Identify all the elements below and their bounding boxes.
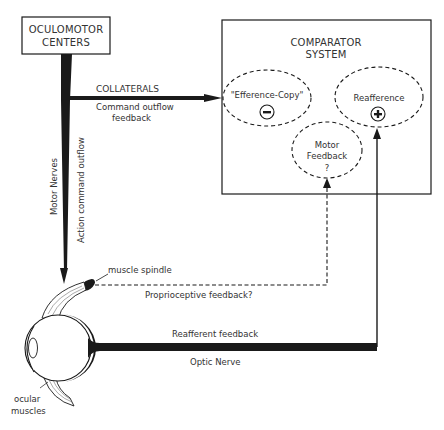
collaterals-line1: Command outflow bbox=[96, 102, 174, 112]
collaterals-title: COLLATERALS bbox=[96, 84, 159, 94]
comparator-title-line1: COMPARATOR bbox=[290, 37, 361, 48]
cornea bbox=[29, 338, 38, 358]
oculomotor-title-line1: OCULOMOTOR bbox=[29, 24, 104, 35]
eyeball bbox=[25, 314, 96, 382]
optic-nerve-label: Optic Nerve bbox=[190, 357, 241, 367]
optic-nerve bbox=[88, 338, 377, 358]
efference-copy-diagram: OCULOMOTOR CENTERS COLLATERALS Command o… bbox=[0, 0, 444, 430]
collaterals-bar bbox=[66, 96, 206, 100]
reafferent-feedback-label: Reafferent feedback bbox=[172, 329, 258, 339]
oculomotor-centers-box: OCULOMOTOR CENTERS bbox=[22, 17, 110, 54]
motor-feedback-node: Motor Feedback ? bbox=[292, 122, 362, 178]
plus-glyph-v bbox=[377, 110, 379, 118]
proprioceptive-label: Proprioceptive feedback? bbox=[145, 290, 252, 300]
minus-glyph bbox=[263, 111, 271, 113]
oculomotor-title-line2: CENTERS bbox=[42, 37, 90, 48]
motor-nerve-arrowhead bbox=[60, 268, 68, 284]
upper-ocular-muscle bbox=[42, 282, 86, 320]
collaterals-line2: feedback bbox=[112, 113, 151, 123]
efference-copy-label: "Efference-Copy" bbox=[231, 90, 304, 100]
motor-nerves-label: Motor Nerves bbox=[49, 157, 59, 215]
ocular-muscles-line2: muscles bbox=[11, 406, 46, 416]
lower-ocular-muscle bbox=[44, 378, 74, 406]
motor-feedback-line3: ? bbox=[325, 163, 330, 173]
motor-feedback-line2: Feedback bbox=[307, 151, 348, 161]
motor-nerve-trunk bbox=[61, 54, 72, 272]
comparator-title-line2: SYSTEM bbox=[305, 49, 346, 60]
muscle-spindle-label: muscle spindle bbox=[108, 265, 172, 275]
ocular-muscles-line1: ocular bbox=[14, 394, 41, 404]
reafference-label: Reafference bbox=[354, 93, 405, 103]
collaterals-arrowhead bbox=[204, 94, 222, 102]
action-command-label: Action command outflow bbox=[76, 137, 86, 243]
motor-feedback-line1: Motor bbox=[315, 140, 340, 150]
